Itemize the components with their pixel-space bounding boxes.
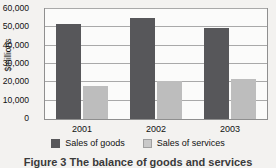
bar-series-group	[45, 9, 267, 119]
legend-label: Sales of services	[157, 138, 225, 148]
y-axis-tick-label: 30,000	[0, 58, 29, 68]
x-axis-tick-label: 2002	[126, 124, 186, 134]
chart-plot-area	[44, 8, 268, 120]
bar	[130, 18, 155, 119]
chart-legend: Sales of goodsSales of services	[0, 138, 276, 148]
x-axis-tick-label: 2001	[52, 124, 112, 134]
figure-container: $millions 010,00020,00030,00040,00050,00…	[0, 0, 276, 168]
y-axis-tick-label: 0	[0, 113, 29, 123]
bar	[83, 86, 108, 119]
legend-item: Sales of services	[143, 138, 225, 148]
legend-label: Sales of goods	[65, 138, 125, 148]
legend-swatch-icon	[51, 139, 60, 148]
y-axis-tick-label: 10,000	[0, 95, 29, 105]
y-axis-tick-label: 60,000	[0, 3, 29, 13]
y-axis-tick-label: 50,000	[0, 21, 29, 31]
bar	[231, 79, 256, 119]
bar	[56, 24, 81, 119]
legend-item: Sales of goods	[51, 138, 125, 148]
figure-caption: Figure 3 The balance of goods and servic…	[0, 156, 276, 168]
y-axis-tick-label: 20,000	[0, 76, 29, 86]
x-axis-tick-label: 2003	[200, 124, 260, 134]
y-axis-tick-label: 40,000	[0, 40, 29, 50]
bar	[204, 28, 229, 119]
legend-swatch-icon	[143, 139, 152, 148]
bar	[157, 81, 182, 119]
